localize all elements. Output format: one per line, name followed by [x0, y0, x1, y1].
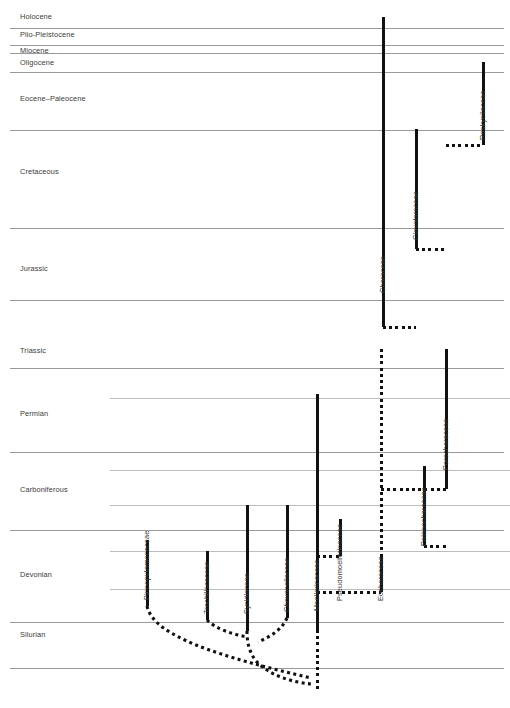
gridline-major	[10, 622, 504, 623]
era-label: Holocene	[20, 13, 52, 20]
gridline-major	[10, 228, 504, 229]
taxon-label: Eocharaceae	[377, 556, 384, 601]
ghost-lineage-vertical	[316, 630, 319, 690]
taxon-label: Pinnoputamenaceae	[143, 530, 150, 600]
taxon-label: Clavatoraceae	[412, 191, 419, 240]
gridline-major	[10, 53, 504, 54]
ghost-lineage-horizontal	[383, 326, 416, 329]
taxon-label: Chovanellaceae	[283, 558, 290, 612]
taxon-label: Raskyellaceae	[479, 91, 486, 140]
era-label: Cretaceous	[20, 168, 59, 175]
taxon-label: Palaeocharaceae	[420, 487, 427, 546]
gridline-major	[10, 28, 504, 29]
era-label: Eocene–Paleocene	[20, 95, 86, 102]
gridline-major	[10, 130, 504, 131]
gridline-major	[10, 668, 504, 669]
taxon-label: Trochiliscaceae	[203, 561, 210, 614]
gridline-minor	[110, 398, 510, 399]
gridline-minor	[110, 551, 510, 552]
gridline-major	[10, 72, 504, 73]
taxon-label: Characeae	[379, 256, 386, 293]
era-label: Devonian	[20, 571, 52, 578]
gridline-major	[10, 300, 504, 301]
gridline-minor	[110, 589, 510, 590]
era-label: Jurassic	[20, 265, 48, 272]
era-label: Oligocene	[20, 59, 54, 66]
taxon-label: Moellerinaceae	[313, 559, 320, 611]
era-label: Permian	[20, 410, 48, 417]
era-label: Carboniferous	[20, 486, 68, 493]
ghost-lineage-horizontal	[416, 248, 446, 251]
gridline-minor	[110, 470, 510, 471]
era-label: Triassic	[20, 347, 46, 354]
era-label: Miocene	[20, 47, 49, 54]
ghost-lineage-horizontal	[381, 488, 446, 491]
era-label: Plio-Pleistocene	[20, 31, 75, 38]
taxon-label: Porocharaceae	[442, 419, 449, 470]
gridline-major	[10, 530, 504, 531]
gridline-major	[10, 368, 504, 369]
branch-curve	[247, 631, 311, 684]
taxon-label: Sycidiaceae	[243, 573, 250, 614]
stratigraphic-range-chart: HolocenePlio-PleistoceneMioceneOligocene…	[0, 0, 510, 708]
era-label: Silurian	[20, 631, 45, 638]
taxon-label: Pseudomoellerinaceae	[336, 524, 343, 601]
gridline-major	[10, 452, 504, 453]
gridline-major	[10, 45, 504, 46]
gridline-minor	[110, 505, 510, 506]
branch-curves-layer	[0, 0, 510, 708]
ghost-lineage-horizontal	[317, 591, 381, 594]
ghost-lineage-horizontal	[446, 144, 483, 147]
